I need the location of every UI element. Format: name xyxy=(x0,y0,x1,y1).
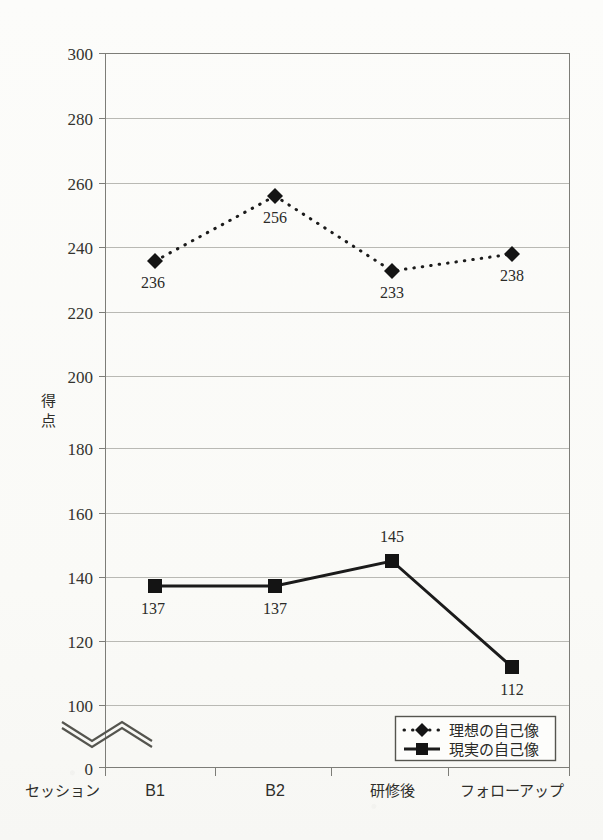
series-ideal-self-line xyxy=(155,196,512,271)
x-tick-label: 研修後 xyxy=(370,782,415,800)
legend-label: 現実の自己像 xyxy=(449,741,539,759)
data-label: 256 xyxy=(263,209,287,226)
data-point-marker xyxy=(504,246,520,262)
data-point-marker xyxy=(505,660,519,674)
series-real-self-value-labels: 137 137 145 112 xyxy=(141,528,524,698)
data-point-marker xyxy=(268,579,282,593)
y-tick-label: 280 xyxy=(68,110,94,129)
data-label: 112 xyxy=(500,681,523,698)
y-tick-marks xyxy=(99,54,105,768)
data-label: 233 xyxy=(380,284,404,301)
y-tick-label: 200 xyxy=(68,368,94,387)
x-axis-row-label: セッション xyxy=(25,782,100,800)
y-tick-label: 220 xyxy=(68,304,94,323)
y-tick-label: 240 xyxy=(68,239,94,258)
y-tick-label: 100 xyxy=(68,697,94,716)
x-tick-label: B1 xyxy=(145,782,165,799)
data-point-marker xyxy=(147,253,163,269)
data-point-marker xyxy=(385,554,399,568)
data-label: 137 xyxy=(141,600,165,617)
y-axis-title-char: 得 xyxy=(41,392,56,410)
series-ideal-self-value-labels: 236 256 233 238 xyxy=(141,209,524,301)
y-axis-title-char: 点 xyxy=(41,412,56,430)
data-label: 238 xyxy=(500,267,524,284)
series-real-self: 137 137 145 112 xyxy=(141,528,524,698)
legend-label: 理想の自己像 xyxy=(449,722,539,740)
y-axis-break-symbol xyxy=(62,722,152,747)
legend-marker-square xyxy=(416,743,428,755)
y-tick-label: 140 xyxy=(68,569,94,588)
y-tick-label: 300 xyxy=(68,45,94,64)
data-label: 145 xyxy=(380,528,404,545)
x-tick-label: フォローアップ xyxy=(460,782,564,800)
y-tick-label: 160 xyxy=(68,505,94,524)
x-tick-marks xyxy=(106,768,570,776)
chart-page: 300 280 260 240 220 200 180 160 140 120 … xyxy=(0,0,603,840)
series-real-self-line xyxy=(155,561,512,667)
y-tick-label: 260 xyxy=(68,175,94,194)
series-ideal-self: 236 256 233 238 xyxy=(141,188,524,301)
y-tick-label: 0 xyxy=(85,760,94,779)
y-tick-label: 180 xyxy=(68,440,94,459)
data-label: 137 xyxy=(263,600,287,617)
data-point-marker xyxy=(267,188,283,204)
y-tick-label: 120 xyxy=(68,633,94,652)
data-label: 236 xyxy=(141,274,165,291)
x-axis-labels: セッション B1 B2 研修後 フォローアップ xyxy=(25,782,565,800)
line-chart: 300 280 260 240 220 200 180 160 140 120 … xyxy=(0,0,603,840)
y-axis-title: 得 点 xyxy=(41,392,56,430)
y-axis-tick-labels: 300 280 260 240 220 200 180 160 140 120 … xyxy=(68,45,94,779)
data-point-marker xyxy=(148,579,162,593)
data-point-marker xyxy=(384,263,400,279)
legend: 理想の自己像 現実の自己像 xyxy=(396,717,556,761)
x-tick-label: B2 xyxy=(265,782,285,799)
gridlines xyxy=(105,54,570,706)
plot-frame xyxy=(105,53,570,768)
